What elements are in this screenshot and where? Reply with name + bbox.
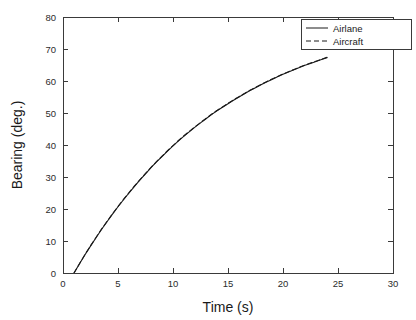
x-tick-label: 15 [223, 278, 234, 289]
y-tick-label: 70 [45, 44, 56, 55]
series-line-airlane [74, 58, 327, 273]
y-tick-labels: 01020304050607080 [45, 12, 56, 279]
x-tick-label: 0 [60, 278, 65, 289]
x-tick-label: 30 [388, 278, 399, 289]
y-tick-label: 50 [45, 108, 56, 119]
y-tick-label: 80 [45, 12, 56, 23]
x-tick-labels: 051015202530 [60, 278, 398, 289]
x-tick-label: 5 [115, 278, 120, 289]
chart-legend[interactable]: AirlaneAircraft [301, 19, 411, 49]
y-tick-label: 60 [45, 76, 56, 87]
series-line-aircraft [74, 57, 327, 273]
y-tick-label: 10 [45, 236, 56, 247]
legend-label-airlane: Airlane [333, 23, 363, 34]
y-tick-label: 40 [45, 140, 56, 151]
tick-marks-group [63, 17, 393, 273]
y-tick-label: 0 [51, 268, 56, 279]
chart-plot: 051015202530 01020304050607080 AirlaneAi… [0, 0, 416, 320]
y-tick-label: 30 [45, 172, 56, 183]
axes-frame [63, 17, 393, 273]
y-tick-label: 20 [45, 204, 56, 215]
legend-label-aircraft: Aircraft [333, 36, 363, 47]
y-axis-title: Bearing (deg.) [9, 101, 25, 190]
x-tick-label: 25 [333, 278, 344, 289]
figure-canvas: 051015202530 01020304050607080 AirlaneAi… [0, 0, 416, 320]
series-group [74, 57, 327, 273]
axes-box [63, 17, 393, 273]
x-tick-label: 10 [168, 278, 179, 289]
x-axis-title: Time (s) [203, 299, 254, 315]
x-tick-label: 20 [278, 278, 289, 289]
